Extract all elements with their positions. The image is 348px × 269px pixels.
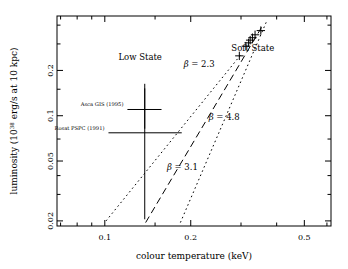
beta-annotation: β = 2.3 bbox=[183, 59, 215, 69]
x-tick-label: 0.1 bbox=[98, 233, 111, 242]
figure-canvas: 0.10.20.5 0.020.050.10.2 Asca GIS (1995)… bbox=[0, 0, 348, 269]
y-tick-label: 0.05 bbox=[46, 152, 55, 170]
y-tick-label: 0.1 bbox=[46, 109, 55, 122]
x-tick-label: 0.2 bbox=[184, 233, 197, 242]
x-axis-title: colour temperature (keV) bbox=[136, 251, 252, 261]
beta-label: β = 2.3 bbox=[183, 59, 215, 69]
beta-annotation: β = 4.8 bbox=[208, 112, 240, 122]
state-annotation: Soft State bbox=[231, 43, 274, 53]
y-tick-label: 0.02 bbox=[46, 212, 55, 230]
beta-label: β = 3.1 bbox=[166, 162, 198, 172]
low-state-point-label: Asca GIS (1995) bbox=[80, 101, 124, 107]
luminosity-vs-colour-temperature-plot: 0.10.20.5 0.020.050.10.2 Asca GIS (1995)… bbox=[0, 0, 348, 269]
beta-annotation: β = 3.1 bbox=[166, 162, 198, 172]
y-axis-title-text: luminosity (1038 erg/s at 10 kpc) bbox=[9, 47, 19, 194]
beta-label: β = 4.8 bbox=[208, 112, 240, 122]
y-tick-label: 0.2 bbox=[46, 64, 55, 77]
state-annotation: Low State bbox=[118, 52, 162, 62]
y-axis-title: luminosity (1038 erg/s at 10 kpc) bbox=[9, 47, 19, 194]
low-state-point-label: Rosat PSPC (1991) bbox=[55, 125, 105, 131]
x-tick-label: 0.5 bbox=[298, 233, 311, 242]
